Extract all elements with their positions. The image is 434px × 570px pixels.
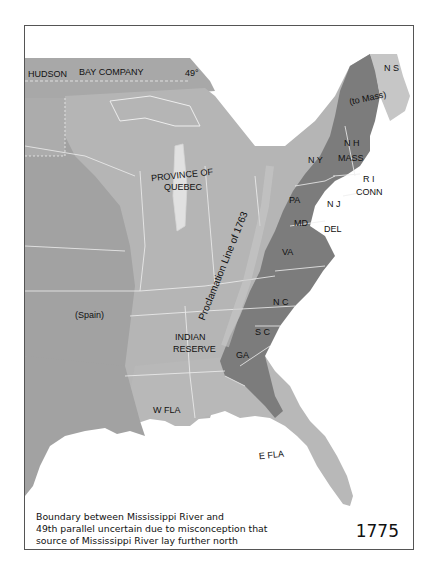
caption-line-3: source of Mississippi River lay further … xyxy=(36,535,267,547)
label-pennsylvania: PA xyxy=(289,196,300,205)
region-louisiana xyxy=(25,356,145,496)
label-georgia: GA xyxy=(236,351,249,360)
label-mass: MASS xyxy=(338,154,364,163)
label-north-carolina: N C xyxy=(273,298,289,307)
label-reserve: RESERVE xyxy=(173,345,216,354)
label-indian: INDIAN xyxy=(175,333,206,342)
label-south-carolina: S C xyxy=(255,328,270,337)
map-frame: HUDSON BAY COMPANY 49° N S (to Mass) N H… xyxy=(24,25,414,550)
label-conn: CONN xyxy=(356,188,383,197)
map-caption: Boundary between Mississippi River and 4… xyxy=(36,511,267,547)
label-virginia: VA xyxy=(282,248,293,257)
label-new-jersey: N J xyxy=(327,200,341,209)
label-new-hampshire: N H xyxy=(344,139,360,148)
label-nova-scotia: N S xyxy=(384,64,399,73)
label-delaware: DEL xyxy=(324,225,342,234)
label-west-florida: W FLA xyxy=(153,406,181,415)
caption-line-1: Boundary between Mississippi River and xyxy=(36,511,267,523)
label-spain: (Spain) xyxy=(75,311,104,320)
label-maryland: MD xyxy=(294,219,308,228)
label-rhode-island: R I xyxy=(363,175,375,184)
label-hudson: HUDSON xyxy=(28,70,67,79)
label-new-york: N Y xyxy=(308,156,323,165)
map-year: 1775 xyxy=(356,521,399,541)
label-quebec: QUEBEC xyxy=(164,183,202,192)
label-bay-company: BAY COMPANY xyxy=(79,68,144,77)
caption-line-2: 49th parallel uncertain due to misconcep… xyxy=(36,523,267,535)
label-49-parallel: 49° xyxy=(185,69,199,78)
